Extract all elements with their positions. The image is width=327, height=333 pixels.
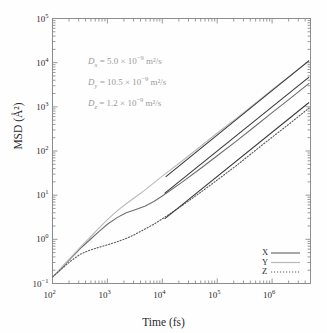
annotation-dz: Dz = 1.2 × 10−9 m²/s xyxy=(88,96,161,110)
y-tick-label: 100 xyxy=(36,232,48,244)
plot-canvas xyxy=(0,0,327,333)
y-tick-label: 10−1 xyxy=(33,277,49,289)
x-tick-label: 102 xyxy=(44,288,56,300)
x-axis-label: Time (fs) xyxy=(0,316,327,328)
figure: MSD (Å²) Time (fs) Dx = 5.0 × 10−9 m²/s … xyxy=(0,0,327,333)
annotation-dx: Dx = 5.0 × 10−9 m²/s xyxy=(88,54,162,68)
fit-x xyxy=(165,77,309,193)
annotation-dy: Dy = 10.5 × 10−9 m²/s xyxy=(88,75,166,89)
series-y xyxy=(53,61,310,277)
x-tick-label: 103 xyxy=(98,288,110,300)
y-tick-label: 103 xyxy=(36,100,48,112)
fit-y xyxy=(166,61,309,177)
legend-label-x: X xyxy=(262,247,268,257)
x-tick-label: 106 xyxy=(263,288,275,300)
y-tick-label: 105 xyxy=(36,12,48,24)
y-axis-label: MSD (Å²) xyxy=(12,76,24,176)
y-tick-label: 101 xyxy=(36,188,48,200)
y-tick-label: 102 xyxy=(36,144,48,156)
x-tick-label: 104 xyxy=(153,288,165,300)
y-tick-label: 104 xyxy=(36,56,48,68)
x-tick-label: 105 xyxy=(208,288,220,300)
legend-label-z: Z xyxy=(262,266,267,276)
legend-label-y: Y xyxy=(262,257,268,267)
